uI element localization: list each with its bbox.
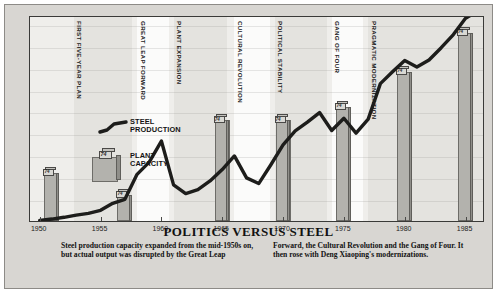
x-axis-tick [101, 217, 102, 221]
chart-title: POLITICS VERSUS STEEL [5, 224, 492, 240]
plot-area: FIRST FIVE-YEAR PLANGREAT LEAP FORWARDPL… [30, 17, 483, 221]
x-axis-tick [344, 217, 345, 221]
x-axis-tick [405, 217, 406, 221]
legend-steel-production-line2: PRODUCTION [130, 126, 181, 134]
x-axis-tick [466, 217, 467, 221]
chart-card: millions of tons 45403530252015105 FIRST… [4, 4, 493, 289]
legend-steel-production: STEEL PRODUCTION [130, 118, 181, 133]
caption-column-2: Forward, the Cultural Revolution and the… [273, 241, 471, 260]
caption-column-1: Steel production capacity expanded from … [61, 241, 259, 260]
crate-icon: 74 [99, 148, 117, 159]
legend-plant-capacity-line2: CAPACITY [130, 160, 168, 168]
legend-line-swatch [98, 119, 128, 135]
x-axis-tick [40, 217, 41, 221]
legend-plant-capacity: PLANT CAPACITY [130, 152, 168, 167]
x-axis-tick [222, 217, 223, 221]
crate-label: 74 [101, 151, 107, 157]
chart-figure: millions of tons 45403530252015105 FIRST… [0, 0, 503, 296]
legend-bar-swatch: 74 [92, 148, 128, 182]
x-axis-tick [283, 217, 284, 221]
chart-caption: Steel production capacity expanded from … [61, 241, 471, 260]
x-axis-tick [161, 217, 162, 221]
plot-frame: FIRST FIVE-YEAR PLANGREAT LEAP FORWARDPL… [29, 16, 484, 222]
